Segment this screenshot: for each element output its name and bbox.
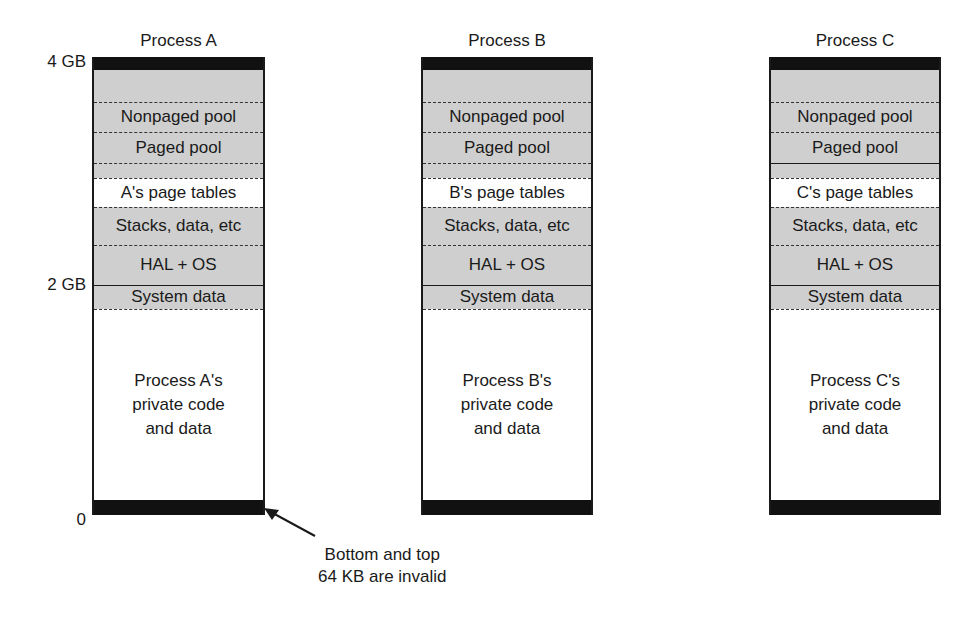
divider [771,207,939,208]
private-line-3: and data [145,417,211,441]
private-line-1: Process C's [810,369,900,393]
reserved-gray-top [423,70,591,102]
process-b-address-space: Nonpaged pool Paged pool B's page tables… [421,57,593,515]
system-data: System data [94,285,263,309]
page-tables: B's page tables [423,178,591,207]
annotation-line-1: Bottom and top [318,544,447,566]
hal-os: HAL + OS [771,245,939,285]
stacks-data-etc: Stacks, data, etc [771,207,939,245]
divider [771,178,939,179]
private-line-1: Process B's [462,369,551,393]
reserved-gray-mid [423,163,591,178]
axis-label-4gb: 4 GB [26,52,86,72]
invalid-bottom-64kb [423,500,591,515]
divider [423,207,591,208]
divider [423,245,591,246]
invalid-bottom-64kb [94,500,263,515]
divider [94,207,263,208]
process-a-title: Process A [92,31,265,51]
annotation-line-2: 64 KB are invalid [318,566,447,588]
divider [771,102,939,103]
private-line-2: private code [809,393,902,417]
divider [771,245,939,246]
divider [423,178,591,179]
reserved-gray-mid [94,163,263,178]
invalid-top-64kb [94,57,263,70]
divider [423,132,591,133]
divider-2gb [94,285,263,286]
divider [94,163,263,164]
nonpaged-pool: Nonpaged pool [771,102,939,132]
page-tables: C's page tables [771,178,939,207]
nonpaged-pool: Nonpaged pool [423,102,591,132]
reserved-gray-mid [771,163,939,178]
reserved-gray-top [771,70,939,102]
hal-os: HAL + OS [94,245,263,285]
divider [771,309,939,310]
invalid-range-annotation: Bottom and top 64 KB are invalid [318,544,447,588]
stacks-data-etc: Stacks, data, etc [423,207,591,245]
process-b-title: Process B [421,31,593,51]
paged-pool: Paged pool [94,132,263,163]
axis-label-2gb: 2 GB [26,275,86,295]
private-line-2: private code [132,393,225,417]
process-c-title: Process C [769,31,941,51]
private-code-and-data: Process A's private code and data [94,309,263,500]
paged-pool: Paged pool [771,132,939,163]
divider [423,309,591,310]
axis-label-0: 0 [26,510,86,530]
stacks-data-etc: Stacks, data, etc [94,207,263,245]
private-line-3: and data [822,417,888,441]
invalid-top-64kb [423,57,591,70]
divider [94,245,263,246]
page-tables: A's page tables [94,178,263,207]
invalid-bottom-64kb [771,500,939,515]
divider [423,102,591,103]
nonpaged-pool: Nonpaged pool [94,102,263,132]
divider [94,102,263,103]
invalid-top-64kb [771,57,939,70]
private-code-and-data: Process B's private code and data [423,309,591,500]
divider [94,309,263,310]
hal-os: HAL + OS [423,245,591,285]
divider-paged-pool-solid [771,163,939,164]
arrow-icon [255,505,325,545]
paged-pool: Paged pool [423,132,591,163]
divider [94,132,263,133]
system-data: System data [423,285,591,309]
divider [423,163,591,164]
divider [94,178,263,179]
reserved-gray-top [94,70,263,102]
divider [771,132,939,133]
private-line-2: private code [461,393,554,417]
process-c-address-space: Nonpaged pool Paged pool C's page tables… [769,57,941,515]
private-line-3: and data [474,417,540,441]
divider-2gb [423,285,591,286]
private-code-and-data: Process C's private code and data [771,309,939,500]
private-line-1: Process A's [134,369,222,393]
system-data: System data [771,285,939,309]
process-a-address-space: Nonpaged pool Paged pool A's page tables… [92,57,265,515]
divider-2gb [771,285,939,286]
